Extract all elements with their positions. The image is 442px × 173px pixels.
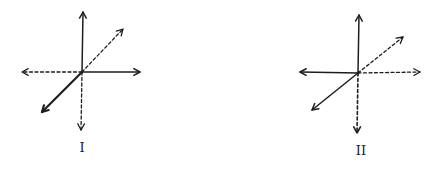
arrow-down-dashed [78,72,85,130]
arrow-up-solid [80,12,87,72]
origin-point [357,72,360,75]
arrow-left-solid [300,69,358,76]
arrow-shaft [312,73,358,110]
arrow-shaft [358,15,359,73]
arrow-shaft [358,37,403,73]
arrow-shaft [300,72,358,73]
figure-label: I [79,140,84,155]
arrow-up-solid [356,15,363,73]
origin-point [81,71,84,74]
arrow-shaft [81,72,82,130]
arrow-down-left-solid [312,73,358,110]
arrow-down-dashed [354,73,361,133]
vector-diagram: I II [0,0,442,173]
arrow-up-right-dashed [358,37,403,73]
arrow-down-left-solid [42,72,82,112]
figure-label: II [356,143,366,158]
arrow-shaft [82,29,123,72]
arrow-shaft [82,12,83,72]
arrow-left-dashed [22,69,82,76]
figure-II: II [300,15,420,158]
arrow-up-right-dashed [82,29,123,72]
arrow-shaft [357,73,358,133]
figure-I: I [22,12,140,155]
arrow-right-dashed [358,69,420,76]
arrow-shaft [42,72,82,112]
arrow-shaft [358,72,420,73]
arrow-right-solid [82,69,140,76]
